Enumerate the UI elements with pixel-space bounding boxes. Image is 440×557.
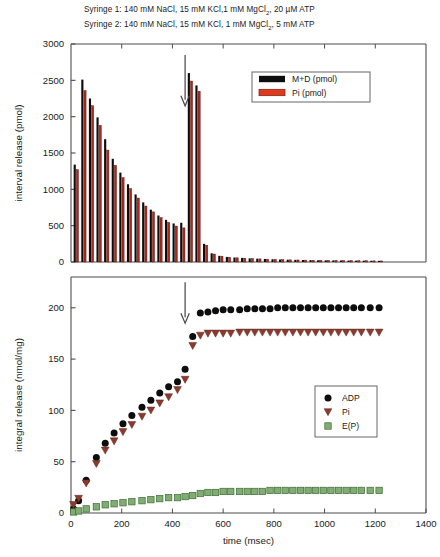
bar-md [271,259,273,262]
point-pi [304,329,312,336]
x-tick-label: 400 [164,518,180,529]
point-pi [119,429,127,436]
point-adp [335,304,342,311]
bar-pi [343,261,345,262]
bar-pi [312,260,314,262]
point-pi [219,330,227,337]
point-pi [281,329,289,336]
bar-pi [335,260,337,262]
point-adp [244,305,251,312]
bar-md [233,257,235,262]
point-pi [350,329,358,336]
top-y-tick-label: 2000 [43,111,64,122]
point-pi [335,329,343,336]
point-ep [190,492,196,498]
bar-md [355,261,357,262]
point-pi [327,329,335,336]
x-tick-label: 200 [114,518,130,529]
x-tick-label: 0 [68,518,73,529]
point-adp [111,429,118,436]
point-ep [111,501,117,507]
bottom-y-tick-label: 150 [48,353,64,364]
point-adp [197,309,204,316]
bar-pi [358,261,360,262]
point-ep [75,508,81,514]
bar-pi [320,260,322,262]
point-pi [128,421,136,428]
point-pi [259,329,267,336]
bar-pi [274,259,276,262]
bar-pi [76,170,78,262]
point-ep [182,493,188,499]
bar-md [195,85,197,262]
point-ep [376,487,382,493]
top-legend-swatch [259,76,285,82]
point-adp [236,306,243,313]
point-adp [297,304,304,311]
point-adp [93,454,100,461]
x-tick-label: 800 [266,518,282,529]
bar-md [287,260,289,262]
point-pi [174,387,182,394]
bar-md [249,258,251,262]
point-ep [259,488,265,494]
point-ep [236,488,242,494]
point-pi [312,329,320,336]
bar-md [279,259,281,262]
point-ep [335,487,341,493]
point-pi [92,460,100,467]
point-pi [342,329,350,336]
point-pi [110,438,118,445]
point-ep [212,489,218,495]
x-axis-title: time (msec) [223,535,274,546]
bar-md [127,184,129,262]
point-adp [139,404,146,411]
point-ep [83,506,89,512]
point-adp [327,304,334,311]
bar-md [104,139,106,262]
point-adp [343,304,350,311]
figure-caption: Syringe 1: 140 mM NaCl, 15 mM KCl,1 mM M… [84,4,414,34]
point-pi [357,329,365,336]
bottom-y-tick-label: 50 [53,456,64,467]
bar-pi [198,91,200,262]
top-legend-label: Pi (pmol) [292,88,327,98]
top-y-tick-label: 500 [48,220,64,231]
point-adp [189,333,196,340]
point-adp [282,304,289,311]
point-adp [220,306,227,313]
x-tick-label: 1200 [365,518,386,529]
bottom-y-axis-title: integral release (nmol/mg) [13,338,24,452]
point-pi [204,330,212,337]
point-adp [128,412,135,419]
bar-pi [152,212,154,262]
point-ep [328,487,334,493]
point-pi [196,332,204,339]
bar-md [348,261,350,262]
point-ep [139,497,145,503]
point-adp [165,383,172,390]
point-ep [220,488,226,494]
bar-pi [244,258,246,262]
x-tick-label: 1000 [314,518,335,529]
bottom-legend: ADPPiE(P) [315,386,377,437]
bottom-y-tick-label: 0 [59,507,64,518]
bottom-legend-label: Pi [342,407,350,417]
bar-pi [327,260,329,262]
point-ep [157,495,163,501]
bar-pi [190,81,192,262]
point-pi [138,413,146,420]
bar-pi [145,206,147,262]
top-y-tick-label: 2500 [43,75,64,86]
point-ep [305,487,311,493]
point-adp [358,304,365,311]
point-ep [282,487,288,493]
bar-md [340,260,342,262]
bar-pi [213,254,215,262]
point-ep [367,487,373,493]
bar-pi [107,150,109,262]
bar-md [256,259,258,262]
point-ep [120,500,126,506]
bar-pi [168,222,170,262]
bar-pi [228,257,230,262]
